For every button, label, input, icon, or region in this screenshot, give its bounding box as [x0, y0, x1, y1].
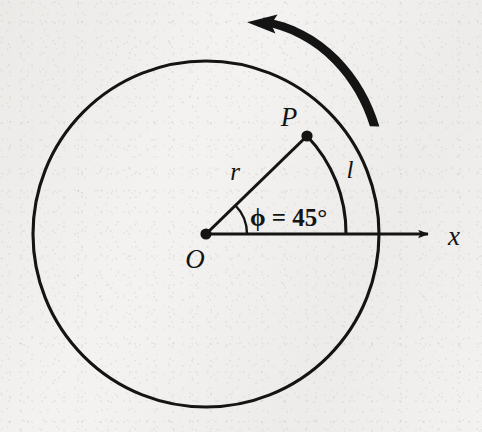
label-radius-r: r	[230, 158, 240, 185]
figure-container: O P r l x ϕ = 45°	[0, 0, 482, 432]
label-axis-x: x	[447, 221, 460, 251]
label-point-p: P	[280, 102, 298, 132]
angle-marker-arc	[235, 205, 247, 234]
label-angle-value: ϕ = 45°	[250, 204, 327, 231]
label-origin: O	[185, 244, 205, 274]
circular-motion-diagram: O P r l x ϕ = 45°	[0, 0, 482, 432]
origin-point	[200, 228, 211, 239]
label-arc-l: l	[347, 156, 354, 183]
point-p-marker	[301, 130, 312, 141]
